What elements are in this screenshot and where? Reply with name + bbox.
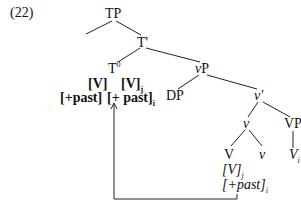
v-feature-v-j: [V]j [222, 163, 244, 177]
t0-feature-v-j: [V]j [121, 77, 143, 91]
node-vp: VP [284, 117, 301, 131]
example-number: (22) [10, 6, 33, 20]
node-small-v: v [259, 148, 265, 162]
node-t-bar: T' [137, 36, 148, 50]
t0-feature-v: [V] [88, 77, 107, 91]
node-dp: DP [166, 89, 184, 103]
t0-feature-past: [+past] [60, 91, 102, 105]
node-big-v: V [224, 148, 234, 162]
node-v-bar: v' [254, 89, 263, 103]
node-small-vp: vP [195, 62, 209, 76]
node-tp: TP [105, 7, 121, 21]
node-v-trace: Vi [289, 148, 300, 162]
t0-feature-past-i: [+ past]i [107, 91, 155, 105]
node-v-head: v [243, 117, 249, 131]
node-t0: T0 [108, 62, 121, 76]
v-feature-past-i: [+past]i [222, 178, 268, 192]
